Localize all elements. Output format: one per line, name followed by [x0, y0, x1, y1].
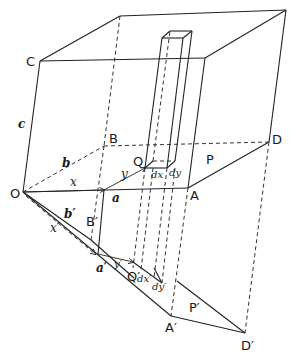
- label-P: P: [206, 152, 214, 167]
- top-face: [40, 10, 286, 61]
- label-y: y: [120, 167, 128, 181]
- label-dx: dx: [151, 169, 163, 180]
- label-O: O: [10, 186, 20, 201]
- label-b: b: [62, 156, 70, 170]
- label-B: B: [109, 131, 118, 146]
- parallelepiped-projection-diagram: C c B b O x a A D P Q y dx dy b′ B′ x′ a…: [0, 0, 292, 359]
- label-dx-prime: dx′: [137, 273, 152, 284]
- label-dy: dy: [169, 167, 181, 178]
- label-B-prime: B′: [86, 214, 98, 229]
- label-A: A: [190, 188, 199, 203]
- label-dy-prime: dy′: [152, 281, 167, 292]
- label-c: c: [18, 117, 26, 131]
- label-a: a: [112, 191, 120, 205]
- label-y-prime: y′: [113, 258, 123, 269]
- label-C: C: [26, 54, 35, 69]
- label-Q: Q: [133, 154, 143, 169]
- label-A-prime: A′: [165, 320, 177, 335]
- label-D-prime: D′: [241, 338, 254, 353]
- prism-column: [145, 31, 192, 168]
- label-x-prime: x′: [50, 221, 60, 235]
- label-D: D: [272, 132, 282, 147]
- labels: C c B b O x a A D P Q y dx dy b′ B′ x′ a…: [10, 54, 282, 353]
- label-b-prime: b′: [64, 207, 76, 221]
- label-a-prime: a′: [96, 261, 108, 275]
- label-x: x: [70, 175, 77, 189]
- label-P-prime: P′: [189, 300, 200, 315]
